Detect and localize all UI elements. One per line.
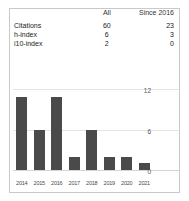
bar-2017[interactable] (69, 157, 80, 170)
bar-2019[interactable] (104, 157, 115, 170)
cell-citations-all: 60 (83, 21, 132, 30)
citation-metrics-table: All Since 2016 Citations 60 23 h-index 6… (10, 9, 179, 48)
column-header-all: All (83, 9, 132, 21)
table-row: h-index 6 3 (10, 30, 179, 39)
chart-baseline (13, 170, 179, 171)
x-axis-label-2015: 2015 (31, 180, 49, 186)
cell-citations-since: 23 (131, 21, 179, 30)
bar-2015[interactable] (34, 130, 45, 170)
bar-2016[interactable] (51, 97, 62, 170)
bar-column[interactable] (101, 80, 119, 170)
x-axis-label-2017: 2017 (66, 180, 84, 186)
bar-column[interactable] (83, 80, 101, 170)
row-label-citations[interactable]: Citations (10, 21, 83, 30)
bar-column[interactable] (13, 80, 31, 170)
bar-column[interactable] (66, 80, 84, 170)
x-axis-label-2016: 2016 (48, 180, 66, 186)
bar-2014[interactable] (16, 97, 27, 170)
y-axis-tick-label: 0 (129, 168, 151, 175)
table-header: All Since 2016 (10, 9, 179, 21)
bar-column[interactable] (48, 80, 66, 170)
y-axis-tick-label: 6 (129, 127, 151, 134)
x-axis-label-2020: 2020 (118, 180, 136, 186)
table-row: i10-index 2 0 (10, 39, 179, 48)
chart-plot-area: 0612 (13, 80, 153, 171)
table-body: Citations 60 23 h-index 6 3 i10-index 2 … (10, 21, 179, 48)
row-label-i10-index[interactable]: i10-index (10, 39, 83, 48)
table-header-row: All Since 2016 (10, 9, 179, 21)
cell-h-index-all: 6 (83, 30, 132, 39)
column-header-metric (10, 9, 83, 21)
metrics-table: All Since 2016 Citations 60 23 h-index 6… (10, 9, 179, 48)
bar-2018[interactable] (86, 130, 97, 170)
x-axis-label-2018: 2018 (83, 180, 101, 186)
row-label-h-index[interactable]: h-index (10, 30, 83, 39)
cell-i10-index-all: 2 (83, 39, 132, 48)
citation-metrics-widget: All Since 2016 Citations 60 23 h-index 6… (0, 0, 189, 201)
cell-i10-index-since: 0 (131, 39, 179, 48)
chart-x-axis: 20142015201620172018201920202021 (13, 180, 153, 186)
column-header-since: Since 2016 (131, 9, 179, 21)
bar-column[interactable] (31, 80, 49, 170)
table-row: Citations 60 23 (10, 21, 179, 30)
x-axis-label-2019: 2019 (101, 180, 119, 186)
citations-per-year-chart: 0612 20142015201620172018201920202021 (10, 76, 179, 192)
x-axis-label-2014: 2014 (13, 180, 31, 186)
y-axis-tick-label: 12 (129, 87, 151, 94)
x-axis-label-2021: 2021 (136, 180, 154, 186)
cell-h-index-since: 3 (131, 30, 179, 39)
